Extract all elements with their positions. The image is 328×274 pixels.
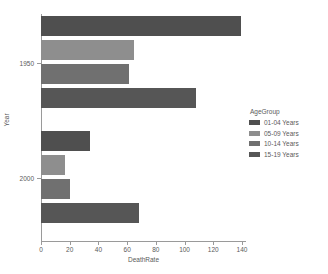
x-axis-tick-label: 120 <box>208 246 219 253</box>
legend: AgeGroup 01-04 Years05-09 Years10-14 Yea… <box>249 108 299 160</box>
legend-title: AgeGroup <box>250 108 299 115</box>
legend-item[interactable]: 01-04 Years <box>249 118 299 127</box>
x-axis-line <box>41 241 246 242</box>
x-axis-title: DeathRate <box>41 256 246 263</box>
bar <box>41 40 134 60</box>
bar <box>41 179 70 199</box>
x-axis-tick-label: 140 <box>237 246 248 253</box>
x-axis-tick-label: 60 <box>124 246 131 253</box>
bar <box>41 131 90 151</box>
y-axis-title: Year <box>3 113 10 126</box>
x-axis-tick-label: 0 <box>39 246 43 253</box>
y-axis-tick <box>37 63 41 64</box>
y-axis-tick-label: 2000 <box>4 174 34 181</box>
legend-item-label: 01-04 Years <box>264 119 299 126</box>
x-axis-tick <box>213 241 214 245</box>
x-axis-tick <box>156 241 157 245</box>
x-axis-tick <box>98 241 99 245</box>
x-axis-tick <box>185 241 186 245</box>
legend-item[interactable]: 15-19 Years <box>249 150 299 159</box>
bar <box>41 64 129 84</box>
legend-item-label: 05-09 Years <box>264 130 299 137</box>
legend-item[interactable]: 10-14 Years <box>249 139 299 148</box>
bar <box>41 16 241 36</box>
x-axis-tick-label: 20 <box>66 246 73 253</box>
legend-swatch-icon <box>249 120 260 125</box>
bar <box>41 155 65 175</box>
y-axis-tick-label: 1950 <box>4 59 34 66</box>
legend-item[interactable]: 05-09 Years <box>249 129 299 138</box>
legend-item-label: 15-19 Years <box>264 151 299 158</box>
x-axis-tick <box>70 241 71 245</box>
legend-swatch-icon <box>249 152 260 157</box>
bar <box>41 203 139 223</box>
x-axis-tick-label: 100 <box>179 246 190 253</box>
bar-chart: 020406080100120140 19502000 DeathRate Ye… <box>0 0 328 274</box>
bar <box>41 88 196 108</box>
legend-item-label: 10-14 Years <box>264 140 299 147</box>
legend-swatch-icon <box>249 141 260 146</box>
x-axis-tick <box>41 241 42 245</box>
x-axis-tick-label: 80 <box>152 246 159 253</box>
x-axis-tick-label: 40 <box>95 246 102 253</box>
x-axis-tick <box>127 241 128 245</box>
legend-items: 01-04 Years05-09 Years10-14 Years15-19 Y… <box>249 118 299 159</box>
legend-swatch-icon <box>249 131 260 136</box>
x-axis-tick <box>242 241 243 245</box>
y-axis-tick <box>37 178 41 179</box>
